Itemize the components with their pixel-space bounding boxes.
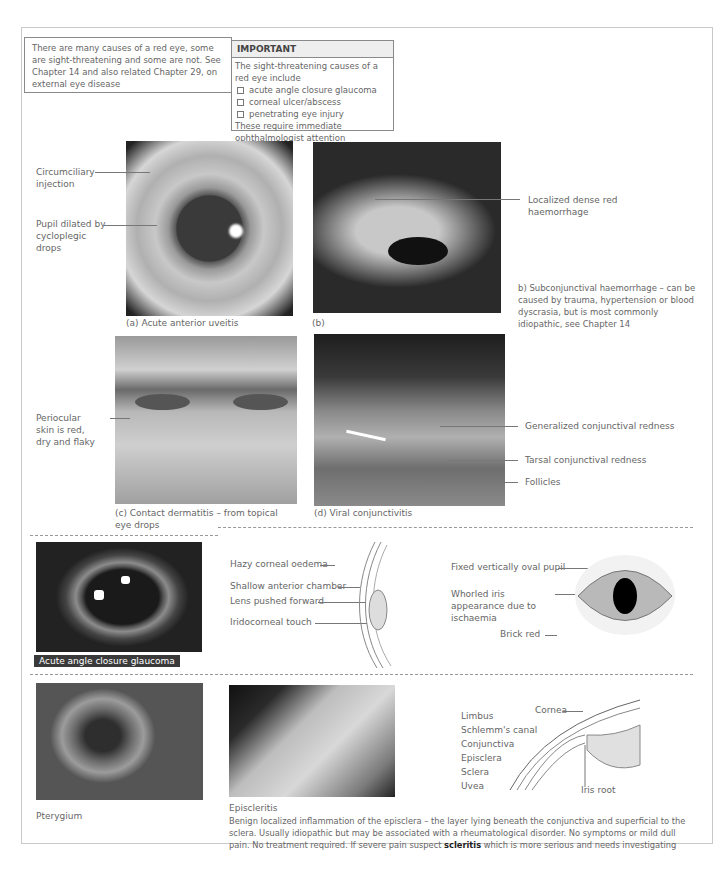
leader-line [440,426,518,427]
leader-line [110,418,130,419]
caption-episcleritis: Episcleritis [229,803,278,813]
intro-text: There are many causes of a red eye, some… [32,43,221,89]
limbus-anatomy-diagram [505,695,645,795]
scleritis-emphasis: scleritis [444,840,481,850]
label-hazy-cornea: Hazy corneal oedema [230,559,328,569]
label-brick-red: Brick red [500,629,540,639]
important-title: IMPORTANT [232,41,393,58]
label-sclera: Sclera [461,767,489,777]
important-lead: The sight-threatening causes of a red ey… [235,60,390,84]
caption-a: (a) Acute anterior uveitis [126,318,238,328]
bullet-icon [237,99,244,106]
label-iridocorneal-touch: Iridocorneal touch [230,617,312,627]
label-periocular-skin: Periocular skin is red, dry and flaky [36,412,101,448]
photo-viral-conjunctivitis [314,334,505,506]
leader-line [545,635,557,636]
label-follicles: Follicles [525,477,561,487]
label-oval-pupil: Fixed vertically oval pupil [451,562,565,572]
section-divider [30,535,218,536]
intro-box: There are many causes of a red eye, some… [24,37,232,93]
leader-line [95,172,150,173]
important-item: penetrating eye injury [235,108,390,120]
section-divider [30,674,693,675]
label-whorled-iris: Whorled iris appearance due to ischaemia [451,588,551,624]
photo-angle-closure-glaucoma [36,542,202,652]
bullet-icon [237,111,244,118]
eye-cross-section-diagram [345,540,405,670]
label-circumciliary: Circumciliary injection [36,166,96,190]
photo-subconjunctival-haemorrhage [313,142,501,313]
caption-glaucoma: Acute angle closure glaucoma [34,655,180,667]
photo-episcleritis [229,685,395,797]
label-pupil-dilated: Pupil dilated by cycloplegic drops [36,218,111,254]
leader-line [320,565,335,566]
leader-line [447,460,518,461]
label-generalized-redness: Generalized conjunctival redness [525,421,674,431]
label-lens-forward: Lens pushed forward [230,596,324,606]
label-episclera: Episclera [461,753,502,763]
bullet-icon [237,87,244,94]
label-shallow-chamber: Shallow anterior chamber [230,581,346,591]
section-divider [218,527,693,528]
important-item: corneal ulcer/abscess [235,96,390,108]
photo-anterior-uveitis [126,141,293,316]
eye-front-diagram [570,550,680,640]
important-box: IMPORTANT The sight-threatening causes o… [231,40,394,131]
label-uvea: Uvea [461,781,484,791]
photo-pterygium [36,683,203,800]
caption-pterygium: Pterygium [36,811,82,821]
important-item: acute angle closure glaucoma [235,84,390,96]
caption-d: (d) Viral conjunctivitis [314,508,412,518]
leader-line [104,225,157,226]
label-tarsal-redness: Tarsal conjunctival redness [525,455,646,465]
leader-line [375,199,520,200]
caption-b: (b) [312,318,325,328]
label-limbus: Limbus [461,711,493,721]
photo-contact-dermatitis [115,336,297,504]
description-b: b) Subconjunctival haemorrhage – can be … [518,282,698,330]
leader-line [422,482,518,483]
label-localized-haemorrhage: Localized dense red haemorrhage [528,194,628,218]
description-episcleritis: Benign localized inflammation of the epi… [229,815,694,851]
